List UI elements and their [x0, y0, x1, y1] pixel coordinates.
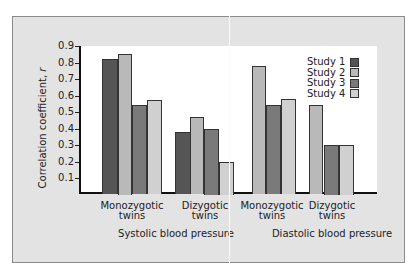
y-tick-label: 0.2 — [50, 157, 74, 167]
legend-swatch — [350, 89, 359, 98]
bar-study-1 — [175, 132, 191, 195]
legend-label: Study 1 — [307, 57, 345, 67]
legend-item-study-1: Study 1 — [307, 57, 359, 68]
y-tick-label: 0.8 — [50, 58, 74, 68]
x-category-line2: twins — [92, 211, 172, 221]
legend-swatch — [350, 79, 359, 88]
legend-item-study-3: Study 3 — [307, 78, 359, 89]
bar-study-4 — [339, 145, 354, 195]
bar-study-4 — [219, 162, 234, 195]
bar-study-3 — [204, 129, 219, 195]
bar-study-2 — [309, 105, 323, 194]
y-tick-label: 0.7 — [50, 74, 74, 84]
y-tick-label: 0.1 — [50, 173, 74, 183]
bar-study-3 — [266, 105, 281, 194]
legend-label: Study 3 — [307, 78, 345, 88]
legend-swatch — [350, 68, 359, 77]
x-category-systolic-mono: Monozygotictwins — [92, 201, 172, 221]
x-group-diastolic: Diastolic blood pressure — [252, 229, 412, 239]
y-tick-label: 0.6 — [50, 91, 74, 101]
bar-study-1 — [102, 59, 118, 194]
bar-study-2 — [190, 117, 204, 195]
x-group-systolic: Systolic blood pressure — [96, 229, 256, 239]
y-tick-label: 0.5 — [50, 107, 74, 117]
bar-study-3 — [132, 105, 147, 194]
y-tick-label: 0.3 — [50, 140, 74, 150]
bar-study-2 — [118, 54, 132, 194]
bar-study-2 — [252, 66, 266, 195]
y-axis-label-variable: r — [37, 68, 48, 72]
x-category-diastolic-di: Dizygotictwins — [292, 201, 372, 221]
y-axis-label: Correlation coefficient, r — [37, 68, 48, 189]
bar-study-4 — [147, 100, 162, 194]
legend-swatch — [350, 58, 359, 67]
panel-divider — [229, 16, 230, 263]
legend-item-study-4: Study 4 — [307, 89, 359, 100]
legend-label: Study 2 — [307, 68, 345, 78]
legend: Study 1 Study 2 Study 3 Study 4 — [307, 57, 359, 99]
y-tick-label: 0.4 — [50, 124, 74, 134]
y-axis-label-text: Correlation coefficient, — [37, 72, 48, 189]
bar-study-4 — [281, 99, 296, 195]
legend-label: Study 4 — [307, 89, 345, 99]
bar-study-3 — [324, 145, 339, 195]
y-tick-label: 0.9 — [50, 41, 74, 51]
x-category-line2: twins — [292, 211, 372, 221]
